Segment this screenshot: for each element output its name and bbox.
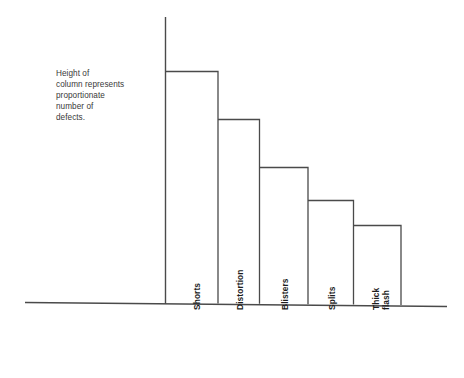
x-tick-label-thick-flash: Thick flash xyxy=(372,288,391,310)
chart-annotation-text: Height of column represents proportionat… xyxy=(56,68,160,123)
x-tick-label-distortion: Distortion xyxy=(236,269,246,310)
x-tick-label-splits: Splits xyxy=(328,287,338,310)
chart-canvas: Height of column represents proportionat… xyxy=(0,0,464,378)
pareto-bar-chart xyxy=(0,0,464,378)
x-tick-label-shorts: Shorts xyxy=(193,283,203,310)
bars-group xyxy=(166,72,402,306)
axes-group xyxy=(25,17,447,307)
bar-shorts[interactable] xyxy=(166,72,219,304)
x-tick-label-blisters: Blisters xyxy=(281,278,291,310)
